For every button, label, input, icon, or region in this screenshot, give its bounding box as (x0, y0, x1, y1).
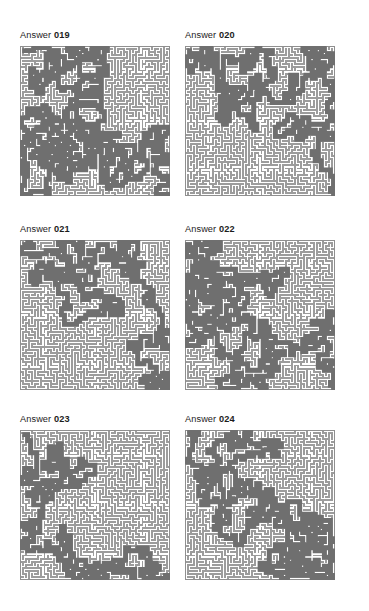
maze-label-number: 019 (54, 30, 70, 40)
maze-label-022: Answer 022 (185, 224, 235, 235)
maze-label-word: Answer (20, 414, 51, 424)
maze-svg (185, 46, 335, 196)
maze-panel-020: Answer 020 (185, 30, 335, 196)
maze-label-021: Answer 021 (20, 224, 70, 235)
maze-label-word: Answer (20, 224, 51, 234)
maze-grid-020 (185, 46, 335, 196)
maze-svg (185, 240, 335, 390)
maze-label-number: 022 (219, 224, 235, 234)
maze-label-word: Answer (20, 30, 51, 40)
maze-panel-019: Answer 019 (20, 30, 170, 196)
maze-grid-019 (20, 46, 170, 196)
maze-label-020: Answer 020 (185, 30, 235, 41)
maze-svg (20, 430, 170, 580)
maze-panel-023: Answer 023 (20, 414, 170, 580)
maze-label-word: Answer (185, 30, 216, 40)
maze-label-word: Answer (185, 414, 216, 424)
maze-grid-021 (20, 240, 170, 390)
maze-label-019: Answer 019 (20, 30, 70, 41)
maze-grid-022 (185, 240, 335, 390)
maze-svg (20, 46, 170, 196)
maze-grid-023 (20, 430, 170, 580)
maze-panel-024: Answer 024 (185, 414, 335, 580)
maze-label-word: Answer (185, 224, 216, 234)
maze-label-number: 020 (219, 30, 235, 40)
maze-label-number: 023 (54, 414, 70, 424)
maze-label-023: Answer 023 (20, 414, 70, 425)
maze-label-number: 021 (54, 224, 70, 234)
maze-svg (185, 430, 335, 580)
maze-panel-021: Answer 021 (20, 224, 170, 390)
maze-panel-022: Answer 022 (185, 224, 335, 390)
maze-label-024: Answer 024 (185, 414, 235, 425)
maze-label-number: 024 (219, 414, 235, 424)
maze-svg (20, 240, 170, 390)
answer-sheet: Answer 019Answer 020Answer 021Answer 022… (0, 0, 369, 611)
maze-grid-024 (185, 430, 335, 580)
